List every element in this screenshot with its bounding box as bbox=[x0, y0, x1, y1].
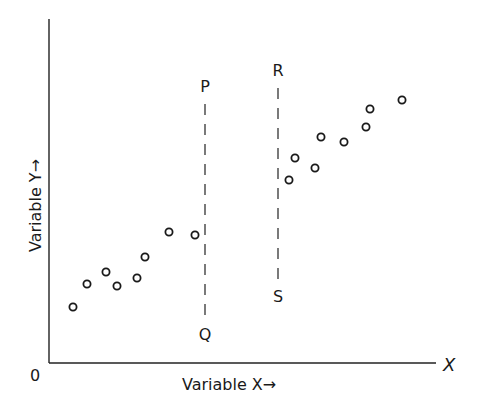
data-point bbox=[398, 96, 405, 103]
data-point bbox=[362, 123, 369, 130]
origin-label: 0 bbox=[30, 366, 40, 385]
data-point bbox=[113, 282, 120, 289]
data-point bbox=[340, 138, 347, 145]
data-point bbox=[285, 176, 292, 183]
x-axis-end-label: X bbox=[442, 354, 456, 375]
reference-lines: PQRS bbox=[199, 61, 284, 344]
reference-label-r: R bbox=[272, 61, 283, 80]
reference-label-p: P bbox=[200, 77, 210, 96]
reference-label-s: S bbox=[273, 287, 283, 306]
data-point bbox=[69, 303, 76, 310]
data-point bbox=[317, 133, 324, 140]
data-point bbox=[311, 164, 318, 171]
scatter-chart: 0 X Variable X→ Variable Y→ PQRS bbox=[0, 0, 486, 417]
data-points bbox=[69, 96, 405, 310]
x-axis-title: Variable X→ bbox=[182, 375, 276, 394]
data-point bbox=[133, 274, 140, 281]
data-point bbox=[291, 154, 298, 161]
reference-label-q: Q bbox=[199, 325, 212, 344]
data-point bbox=[366, 105, 373, 112]
y-axis-title: Variable Y→ bbox=[26, 159, 45, 252]
data-point bbox=[191, 231, 198, 238]
data-point bbox=[165, 228, 172, 235]
data-point bbox=[83, 280, 90, 287]
data-point bbox=[141, 253, 148, 260]
data-point bbox=[102, 268, 109, 275]
